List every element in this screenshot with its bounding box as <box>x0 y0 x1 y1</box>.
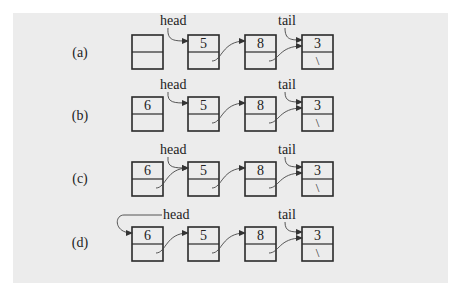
node-value: 5 <box>200 36 207 51</box>
node-next-pointer: \ <box>316 53 320 68</box>
tail-label: tail <box>278 13 296 28</box>
list-node: 5 <box>188 97 219 131</box>
head-label: head <box>160 13 186 28</box>
node-value: 3 <box>314 163 321 178</box>
head-label: head <box>163 207 189 222</box>
row-c: (c)6583\headtail <box>72 142 333 196</box>
list-node: 8 <box>245 162 276 196</box>
head-pointer-arrow <box>168 28 188 41</box>
list-node: 5 <box>188 35 219 69</box>
list-node: 3\ <box>302 227 333 261</box>
node-value: 8 <box>257 228 264 243</box>
tail-pointer-arrow <box>285 28 302 40</box>
head-label: head <box>160 77 186 92</box>
head-pointer-arrow <box>168 157 188 168</box>
tail-label: tail <box>278 77 296 92</box>
list-node: 5 <box>188 227 219 261</box>
node-value: 6 <box>144 163 151 178</box>
node-value: 5 <box>200 228 207 243</box>
head-label: head <box>160 142 186 157</box>
list-node: 8 <box>245 227 276 261</box>
tail-label: tail <box>278 207 296 222</box>
list-node: 6 <box>132 227 163 261</box>
row-label: (b) <box>72 108 89 124</box>
list-node: 3\ <box>302 162 333 196</box>
head-pointer-arrow <box>168 92 188 103</box>
list-node: 8 <box>245 35 276 69</box>
list-node: 3\ <box>302 97 333 131</box>
list-node: 6 <box>132 97 163 131</box>
node-value: 5 <box>200 98 207 113</box>
row-a: (a)583\headtail <box>72 13 333 69</box>
tail-pointer-arrow <box>285 222 302 232</box>
list-node: 3\ <box>302 35 333 69</box>
node-value: 8 <box>257 36 264 51</box>
node-value: 6 <box>144 98 151 113</box>
tail-label: tail <box>278 142 296 157</box>
row-label: (c) <box>72 171 88 187</box>
list-node <box>132 35 163 69</box>
node-value: 8 <box>257 98 264 113</box>
row-label: (a) <box>72 45 88 61</box>
row-b: (b)6583\headtail <box>72 77 333 131</box>
list-node: 5 <box>188 162 219 196</box>
node-value: 3 <box>314 36 321 51</box>
tail-pointer-arrow <box>285 157 302 167</box>
node-next-pointer: \ <box>316 180 320 195</box>
node-next-pointer: \ <box>316 245 320 260</box>
linked-list-diagram: (a)583\headtail(b)6583\headtail(c)6583\h… <box>0 0 461 291</box>
node-value: 3 <box>314 98 321 113</box>
node-value: 3 <box>314 228 321 243</box>
list-node: 6 <box>132 162 163 196</box>
node-next-pointer: \ <box>316 115 320 130</box>
row-label: (d) <box>72 235 89 251</box>
node-value: 6 <box>144 228 151 243</box>
tail-pointer-arrow <box>285 92 302 102</box>
node-value: 8 <box>257 163 264 178</box>
row-d: (d)6583\headtail <box>72 207 333 261</box>
node-value: 5 <box>200 163 207 178</box>
list-node: 8 <box>245 97 276 131</box>
